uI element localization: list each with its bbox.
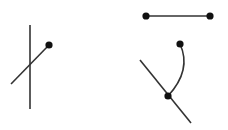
endpoint-dot-right — [206, 12, 213, 19]
crossing-lines-figure — [11, 25, 53, 109]
endpoint-dot-left — [142, 12, 149, 19]
arc-start-dot — [176, 40, 183, 47]
endpoint-dot — [45, 41, 52, 48]
segment-figure — [142, 12, 213, 19]
diagram-canvas — [0, 0, 228, 130]
curved-arc — [168, 44, 184, 96]
intersection-dot — [164, 92, 171, 99]
arc-and-line-figure — [140, 40, 191, 123]
